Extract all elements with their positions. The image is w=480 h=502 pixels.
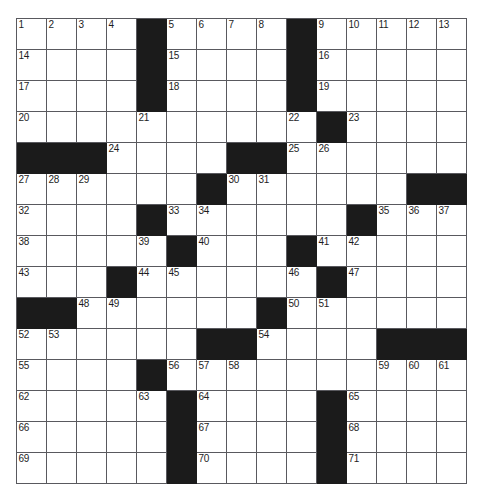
crossword-cell[interactable]: [377, 81, 407, 112]
crossword-cell[interactable]: 39: [137, 236, 167, 267]
crossword-cell[interactable]: [47, 50, 77, 81]
crossword-cell[interactable]: [227, 267, 257, 298]
crossword-cell[interactable]: [197, 298, 227, 329]
crossword-cell[interactable]: [227, 298, 257, 329]
crossword-cell[interactable]: 19: [317, 81, 347, 112]
crossword-cell[interactable]: 5: [167, 19, 197, 50]
crossword-cell[interactable]: 36: [407, 205, 437, 236]
crossword-cell[interactable]: [437, 298, 467, 329]
crossword-cell[interactable]: [317, 360, 347, 391]
crossword-cell[interactable]: [227, 112, 257, 143]
crossword-cell[interactable]: [377, 236, 407, 267]
crossword-cell[interactable]: [437, 81, 467, 112]
crossword-cell[interactable]: [437, 267, 467, 298]
crossword-cell[interactable]: 47: [347, 267, 377, 298]
crossword-cell[interactable]: 15: [167, 50, 197, 81]
crossword-cell[interactable]: [227, 81, 257, 112]
crossword-cell[interactable]: 28: [47, 174, 77, 205]
crossword-cell[interactable]: 31: [257, 174, 287, 205]
crossword-cell[interactable]: [77, 81, 107, 112]
crossword-cell[interactable]: [287, 391, 317, 422]
crossword-cell[interactable]: 70: [197, 453, 227, 484]
crossword-cell[interactable]: [347, 329, 377, 360]
crossword-cell[interactable]: [257, 112, 287, 143]
crossword-cell[interactable]: 38: [17, 236, 47, 267]
crossword-cell[interactable]: 68: [347, 422, 377, 453]
crossword-cell[interactable]: [407, 50, 437, 81]
crossword-cell[interactable]: [107, 236, 137, 267]
crossword-cell[interactable]: 7: [227, 19, 257, 50]
crossword-cell[interactable]: [167, 298, 197, 329]
crossword-cell[interactable]: 24: [107, 143, 137, 174]
crossword-cell[interactable]: [287, 360, 317, 391]
crossword-cell[interactable]: 26: [317, 143, 347, 174]
crossword-cell[interactable]: 43: [17, 267, 47, 298]
crossword-cell[interactable]: 40: [197, 236, 227, 267]
crossword-cell[interactable]: [347, 174, 377, 205]
crossword-cell[interactable]: 23: [347, 112, 377, 143]
crossword-cell[interactable]: [347, 360, 377, 391]
crossword-cell[interactable]: [197, 112, 227, 143]
crossword-cell[interactable]: 34: [197, 205, 227, 236]
crossword-cell[interactable]: 30: [227, 174, 257, 205]
crossword-cell[interactable]: [407, 298, 437, 329]
crossword-cell[interactable]: 62: [17, 391, 47, 422]
crossword-cell[interactable]: [77, 329, 107, 360]
crossword-cell[interactable]: [347, 143, 377, 174]
crossword-cell[interactable]: [437, 422, 467, 453]
crossword-cell[interactable]: [407, 267, 437, 298]
crossword-cell[interactable]: 66: [17, 422, 47, 453]
crossword-cell[interactable]: [47, 205, 77, 236]
crossword-cell[interactable]: 60: [407, 360, 437, 391]
crossword-cell[interactable]: [227, 453, 257, 484]
crossword-cell[interactable]: [257, 422, 287, 453]
crossword-cell[interactable]: 35: [377, 205, 407, 236]
crossword-cell[interactable]: [347, 298, 377, 329]
crossword-cell[interactable]: [167, 174, 197, 205]
crossword-cell[interactable]: 45: [167, 267, 197, 298]
crossword-cell[interactable]: [47, 453, 77, 484]
crossword-cell[interactable]: 25: [287, 143, 317, 174]
crossword-cell[interactable]: [437, 50, 467, 81]
crossword-cell[interactable]: 10: [347, 19, 377, 50]
crossword-cell[interactable]: [377, 50, 407, 81]
crossword-cell[interactable]: [137, 453, 167, 484]
crossword-cell[interactable]: 29: [77, 174, 107, 205]
crossword-cell[interactable]: [77, 112, 107, 143]
crossword-cell[interactable]: [317, 205, 347, 236]
crossword-cell[interactable]: [107, 50, 137, 81]
crossword-cell[interactable]: 16: [317, 50, 347, 81]
crossword-cell[interactable]: [197, 267, 227, 298]
crossword-cell[interactable]: 58: [227, 360, 257, 391]
crossword-cell[interactable]: [227, 422, 257, 453]
crossword-cell[interactable]: 63: [137, 391, 167, 422]
crossword-cell[interactable]: [257, 205, 287, 236]
crossword-cell[interactable]: 17: [17, 81, 47, 112]
crossword-cell[interactable]: 64: [197, 391, 227, 422]
crossword-cell[interactable]: 69: [17, 453, 47, 484]
crossword-cell[interactable]: [107, 422, 137, 453]
crossword-cell[interactable]: 71: [347, 453, 377, 484]
crossword-cell[interactable]: [107, 329, 137, 360]
crossword-cell[interactable]: [287, 174, 317, 205]
crossword-cell[interactable]: [107, 360, 137, 391]
crossword-cell[interactable]: [437, 143, 467, 174]
crossword-cell[interactable]: 2: [47, 19, 77, 50]
crossword-cell[interactable]: [407, 143, 437, 174]
crossword-cell[interactable]: 4: [107, 19, 137, 50]
crossword-cell[interactable]: [137, 329, 167, 360]
crossword-cell[interactable]: [407, 236, 437, 267]
crossword-cell[interactable]: [197, 143, 227, 174]
crossword-cell[interactable]: [77, 267, 107, 298]
crossword-cell[interactable]: 41: [317, 236, 347, 267]
crossword-cell[interactable]: [347, 50, 377, 81]
crossword-cell[interactable]: [137, 422, 167, 453]
crossword-cell[interactable]: [377, 422, 407, 453]
crossword-cell[interactable]: [347, 81, 377, 112]
crossword-cell[interactable]: 52: [17, 329, 47, 360]
crossword-cell[interactable]: [287, 205, 317, 236]
crossword-cell[interactable]: 65: [347, 391, 377, 422]
crossword-cell[interactable]: [107, 174, 137, 205]
crossword-cell[interactable]: 13: [437, 19, 467, 50]
crossword-cell[interactable]: 8: [257, 19, 287, 50]
